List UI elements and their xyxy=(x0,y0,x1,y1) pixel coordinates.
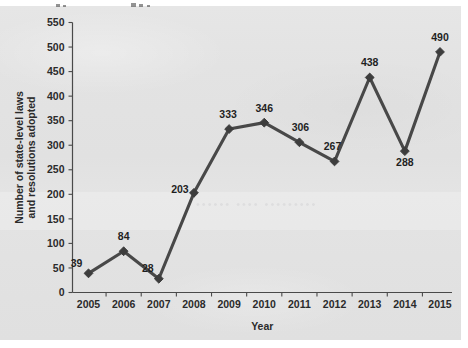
y-tick-label: 200 xyxy=(47,188,65,200)
x-tick-label: 2012 xyxy=(323,298,347,310)
figure: •••••• •••• ••••••••• 050100150200250300… xyxy=(0,0,468,348)
x-tick-label: 2015 xyxy=(428,298,452,310)
data-label: 333 xyxy=(219,108,237,120)
x-tick-label: 2005 xyxy=(77,298,101,310)
x-tick-label: 2009 xyxy=(217,298,241,310)
x-tick-label: 2006 xyxy=(112,298,136,310)
y-tick-label: 50 xyxy=(53,262,65,274)
data-label: 346 xyxy=(255,102,273,114)
data-label: 39 xyxy=(71,257,83,269)
data-label: 84 xyxy=(118,230,130,242)
x-tick-label: 2010 xyxy=(253,298,277,310)
y-axis-title-line2: and resolutions adopted xyxy=(25,97,37,219)
y-tick-label: 300 xyxy=(47,139,65,151)
data-label: 203 xyxy=(171,183,189,195)
y-tick-label: 0 xyxy=(59,286,65,298)
y-axis-title-line1: Number of state-level laws xyxy=(13,91,25,224)
y-tick-label: 250 xyxy=(47,163,65,175)
y-tick-label: 550 xyxy=(47,16,65,28)
data-label: 490 xyxy=(431,31,449,43)
data-label: 438 xyxy=(361,56,379,68)
x-axis-title: Year xyxy=(251,320,273,332)
data-label: 267 xyxy=(324,140,342,152)
data-label: 288 xyxy=(396,156,414,168)
x-tick-label: 2013 xyxy=(358,298,382,310)
y-tick-label: 100 xyxy=(47,237,65,249)
x-tick-label: 2014 xyxy=(393,298,417,310)
data-label: 28 xyxy=(142,262,154,274)
data-point-labels: 398428203333346306267438288490 xyxy=(71,31,449,274)
y-tick-label: 400 xyxy=(47,90,65,102)
y-axis: 050100150200250300350400450500550 xyxy=(47,16,73,298)
data-series xyxy=(84,48,444,284)
y-tick-label: 500 xyxy=(47,41,65,53)
y-tick-label: 450 xyxy=(47,65,65,77)
line-chart: 050100150200250300350400450500550 200520… xyxy=(0,0,468,348)
y-tick-label: 350 xyxy=(47,114,65,126)
x-tick-label: 2008 xyxy=(182,298,206,310)
x-tick-label: 2011 xyxy=(288,298,311,310)
y-tick-label: 150 xyxy=(47,213,65,225)
data-label: 306 xyxy=(292,121,310,133)
x-axis: 2005200620072008200920102011201220132014… xyxy=(73,293,453,310)
x-tick-label: 2007 xyxy=(147,298,171,310)
